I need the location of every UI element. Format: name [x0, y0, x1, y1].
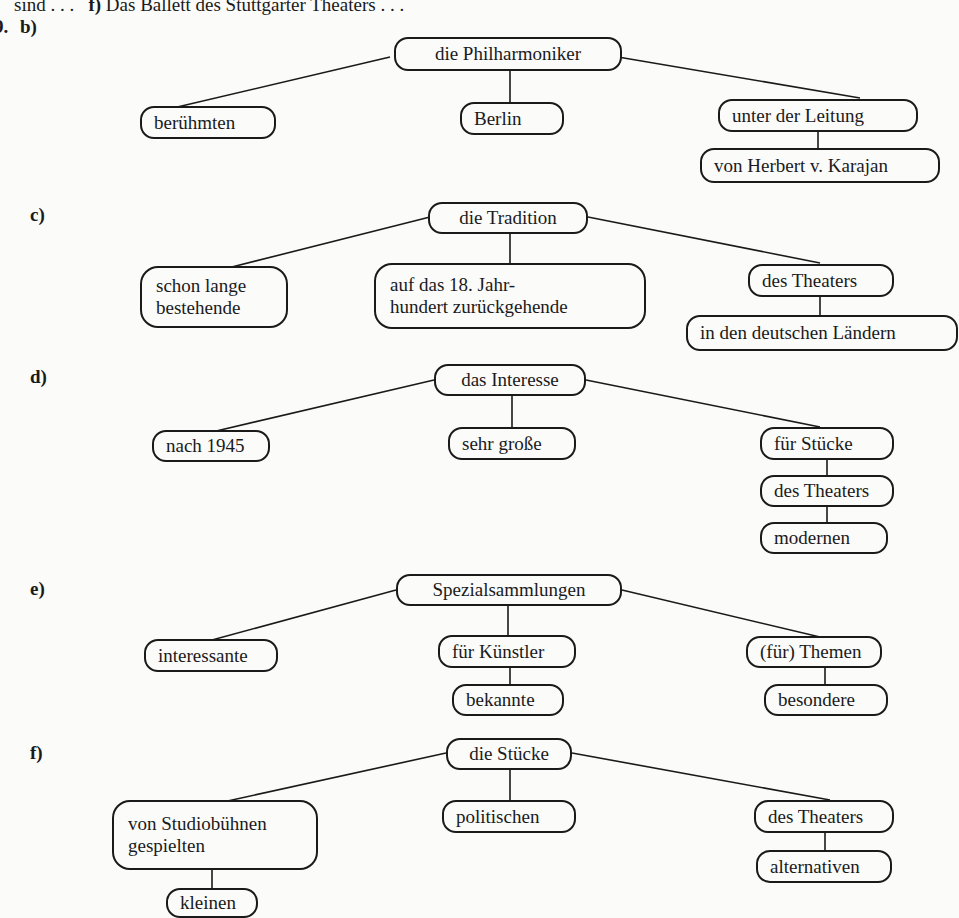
diagram-c-child: auf das 18. Jahr-hundert zurückgehende: [374, 263, 646, 329]
line: von Studiobühnen: [128, 813, 267, 835]
diagram-f-child: von Studiobühnengespielten: [112, 800, 318, 870]
diagram-f-label: f): [30, 742, 43, 764]
diagram-c-root: die Tradition: [428, 202, 588, 234]
diagram-c-subchild: in den deutschen Ländern: [686, 315, 958, 351]
diagram-e-root: Spezialsammlungen: [396, 574, 622, 606]
diagram-b-child: unter der Leitung: [718, 99, 918, 132]
diagram-e-subchild: besondere: [764, 684, 888, 716]
diagram-b-child: berühmten: [140, 106, 276, 139]
diagram-b-child: Berlin: [460, 102, 564, 135]
diagram-c-child: des Theaters: [748, 264, 894, 297]
diagram-e-label: e): [30, 578, 45, 600]
diagram-b-root: die Philharmoniker: [394, 37, 622, 71]
line: auf das 18. Jahr-: [390, 274, 568, 296]
line: gespielten: [128, 835, 267, 857]
diagram-c-child: schon langebestehende: [140, 266, 288, 328]
diagram-f-subchild: kleinen: [166, 888, 258, 918]
diagram-f-subchild: alternativen: [756, 850, 892, 883]
line: hundert zurückgehende: [390, 296, 568, 318]
diagram-c-label: c): [30, 204, 45, 226]
diagram-d-label: d): [30, 366, 47, 388]
diagram-b-label: b): [20, 16, 37, 38]
diagram-f-root: die Stücke: [446, 738, 572, 770]
diagram-d-child: nach 1945: [152, 430, 270, 462]
diagram-d-child: für Stücke: [760, 427, 894, 460]
diagram-e-subchild: bekannte: [452, 684, 564, 716]
line: bestehende: [156, 297, 246, 319]
line: schon lange: [156, 275, 246, 297]
diagram-e-child: interessante: [144, 639, 278, 672]
diagram-f-child: politischen: [442, 800, 576, 833]
diagram-d-subchild: modernen: [760, 522, 888, 554]
diagram-e-child: (für) Themen: [746, 636, 882, 668]
diagram-d-subchild: des Theaters: [760, 475, 894, 507]
diagram-b-subchild: von Herbert v. Karajan: [700, 148, 940, 183]
diagram-f-child: des Theaters: [754, 800, 894, 833]
diagram-d-child: sehr große: [448, 427, 576, 460]
diagram-d-root: das Interesse: [434, 364, 586, 396]
diagram-e-child: für Künstler: [438, 635, 576, 668]
